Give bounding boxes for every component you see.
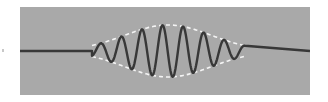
wave-packet-figure: [0, 0, 328, 102]
wave-packet-diagram: [0, 0, 328, 102]
left-margin-mark: [2, 49, 4, 52]
